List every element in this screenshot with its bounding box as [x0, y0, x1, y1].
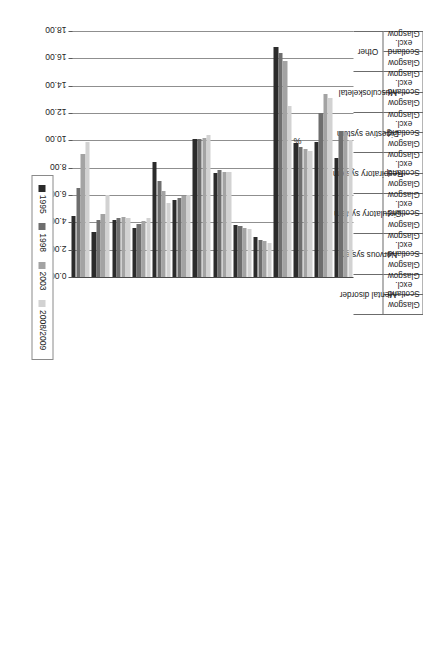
area-label: Glasgow [387, 57, 419, 66]
bar-group [272, 31, 292, 277]
bar-20082009 [226, 172, 230, 277]
bar-2003 [121, 217, 125, 277]
bar-1995 [314, 142, 318, 277]
area-label: Glasgow [387, 179, 419, 188]
bar-2003 [303, 149, 307, 277]
bar-1995 [172, 200, 176, 277]
area-label: Glasgow [387, 138, 419, 147]
bar-2003 [80, 154, 84, 277]
legend-label: 2008/2009 [37, 310, 47, 350]
bar-2003 [202, 138, 206, 277]
bar-group [252, 31, 272, 277]
bar-group [232, 31, 252, 277]
bar-20082009 [146, 218, 150, 277]
tick-mark [68, 250, 72, 251]
bar-1995 [253, 237, 257, 277]
bar-1998 [76, 188, 80, 277]
bar-20082009 [267, 243, 271, 277]
bar-20082009 [125, 218, 129, 277]
bar-1995 [334, 158, 338, 277]
bar-group [171, 31, 191, 277]
legend-label: 2003 [37, 272, 47, 291]
condition-axis-cell: Musculoskeletal [353, 71, 383, 111]
bar-group [131, 31, 151, 277]
bar-1995 [293, 143, 297, 277]
condition-axis-cell: Circulatory system [353, 193, 383, 233]
tick-mark [68, 31, 72, 32]
tick-label: 12.00 [45, 107, 66, 117]
area-label: Glasgow [387, 219, 419, 228]
bar-2003 [323, 94, 327, 277]
bar-1995 [273, 47, 277, 277]
bar-20082009 [206, 135, 210, 277]
bar-1998 [157, 181, 161, 277]
legend-swatch [39, 300, 46, 307]
condition-axis-cell: Mental disorder [353, 274, 383, 314]
plot-area [70, 31, 353, 277]
bar-1998 [136, 224, 140, 277]
bar-20082009 [327, 98, 331, 277]
legend-item: 2003 [37, 262, 47, 291]
tick-label: 16.00 [45, 52, 66, 62]
legend-swatch [39, 223, 46, 230]
bar-2003 [262, 241, 266, 277]
bar-1998 [237, 226, 241, 277]
area-axis-cell: Scotlandexcl.Glasgow [383, 31, 423, 51]
bar-20082009 [166, 203, 170, 277]
tick-label: 18.00 [45, 25, 66, 35]
bar-1995 [233, 225, 237, 277]
legend: 1995199820032008/2009 [31, 175, 53, 360]
tick-mark [68, 140, 72, 141]
bar-1998 [96, 220, 100, 277]
bar-1998 [217, 170, 221, 277]
tick-label: 14.00 [45, 80, 66, 90]
bar-1998 [116, 218, 120, 277]
bar-group [191, 31, 211, 277]
category-table-right-border [353, 314, 423, 315]
bar-1995 [213, 173, 217, 277]
bar-group [151, 31, 171, 277]
tick-mark [68, 86, 72, 87]
bar-1995 [152, 162, 156, 277]
condition-axis-cell: Respiratory system [353, 152, 383, 192]
bar-2003 [242, 228, 246, 277]
bar-1998 [298, 147, 302, 277]
legend-item: 2008/2009 [37, 300, 47, 350]
bar-1998 [177, 198, 181, 277]
bar-20082009 [307, 151, 311, 277]
tick-mark [68, 277, 72, 278]
tick-mark [68, 168, 72, 169]
tick-label: 10.00 [45, 134, 66, 144]
bar-1998 [338, 131, 342, 277]
legend-swatch [39, 262, 46, 269]
condition-axis-cell: Nervous system [353, 233, 383, 273]
bar-1995 [71, 216, 75, 278]
condition-label: Other [357, 47, 377, 56]
bar-2003 [141, 221, 145, 277]
bar-group [110, 31, 130, 277]
condition-axis-cell: Other [353, 31, 383, 71]
bar-1995 [112, 220, 116, 277]
bar-2003 [222, 172, 226, 277]
axis-title-percent: % [293, 136, 301, 146]
legend-item: 1998 [37, 223, 47, 252]
area-label: Glasgow [387, 259, 419, 268]
bar-1995 [91, 232, 95, 277]
bar-group [313, 31, 333, 277]
legend-label: 1995 [37, 195, 47, 214]
legend-item: 1995 [37, 185, 47, 214]
bar-1998 [278, 53, 282, 277]
axis-baseline [70, 277, 353, 278]
bar-2003 [161, 191, 165, 277]
area-label: Glasgow [387, 98, 419, 107]
tick-mark [68, 195, 72, 196]
bar-1995 [132, 228, 136, 277]
bar-20082009 [186, 195, 190, 277]
condition-axis-cell: Digestive system [353, 112, 383, 152]
legend-label: 1998 [37, 233, 47, 252]
bar-20082009 [85, 142, 89, 277]
condition-label: Mental disorder [339, 290, 395, 299]
tick-mark [68, 58, 72, 59]
area-label: Glasgow [387, 300, 419, 309]
bar-group [90, 31, 110, 277]
